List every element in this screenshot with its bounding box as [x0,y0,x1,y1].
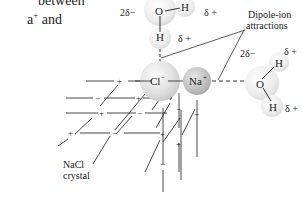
top-water-H2: H [156,31,164,43]
svg-text:−: − [194,109,199,119]
top-water-partial-H2: δ + [178,33,191,44]
pointer-line [161,30,245,58]
right-water-O: O [256,78,264,90]
right-water-partial-H2: δ + [285,103,298,114]
cl-charge: − [161,74,165,82]
right-water-partial-H1: δ + [284,46,297,57]
svg-text:+: + [176,139,181,149]
svg-text:−: − [137,108,142,118]
top-water-partial-H1: δ + [204,7,217,18]
top-water-partial-O: 2δ− [120,7,136,18]
svg-text:+: + [160,129,165,139]
right-water-partial-O: 2δ− [240,48,256,59]
svg-text:−: − [176,104,181,114]
right-water-H1: H [275,57,283,69]
top-water-O: O [155,5,163,17]
cl-ion-label: Cl [150,75,160,87]
nacl-label-2: crystal [63,170,90,181]
top-water-H1: H [181,1,189,13]
right-water-molecule: O H H 2δ− δ + δ + [240,46,298,117]
top-water-molecule: O H H 2δ− δ + δ + [120,0,217,49]
na-ion-label: Na [189,75,202,87]
svg-text:+: + [99,108,104,118]
svg-text:+: + [136,93,141,103]
dipole-ion-label-2: attractions [246,20,288,31]
nacl-label-1: NaCl [63,159,84,170]
right-water-H2: H [269,101,277,113]
na-charge: + [203,74,207,82]
svg-text:+: + [68,128,73,138]
dipole-ion-diagram: O H H 2δ− δ + δ + Dipole-ion attractions [0,0,302,208]
svg-text:−: − [160,159,165,169]
svg-text:−: − [112,128,117,138]
svg-text:−: − [95,93,100,103]
sodium-ion: Na + [183,67,211,95]
svg-text:+: + [117,76,122,86]
dipole-ion-label-1: Dipole-ion [248,9,291,20]
